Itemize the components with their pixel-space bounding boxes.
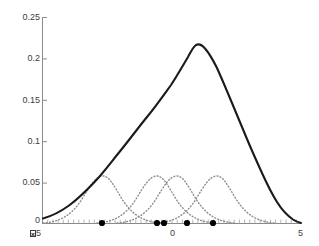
missing-minus-glyph-icon bbox=[30, 230, 36, 237]
x-axis-minor-ticks bbox=[48, 220, 297, 224]
rug-marker bbox=[154, 220, 160, 226]
x-tick-label-minus5: 5 bbox=[30, 229, 41, 238]
rug-marker bbox=[99, 220, 105, 226]
rug-marker bbox=[184, 220, 190, 226]
x-tick-label-minus5-text: 5 bbox=[36, 228, 41, 238]
y-tick-label-025: 0.25 bbox=[13, 13, 40, 22]
plot-area bbox=[0, 0, 319, 246]
kernel-component-1-path bbox=[43, 176, 161, 223]
kernel-component-4-path bbox=[157, 176, 275, 223]
y-tick-label-015: 0.15 bbox=[13, 96, 40, 105]
mixture-density-curve bbox=[43, 44, 301, 223]
x-tick-label-0: 0 bbox=[170, 229, 175, 238]
x-tick-label-5: 5 bbox=[298, 229, 303, 238]
y-axis-ticks bbox=[43, 18, 48, 224]
kernel-component-3-path bbox=[117, 176, 235, 223]
rug-marker bbox=[210, 220, 216, 226]
y-tick-label-005: 0.05 bbox=[13, 178, 40, 187]
rug-marker bbox=[161, 220, 167, 226]
y-tick-label-0: 0 bbox=[13, 216, 40, 225]
y-tick-label-02: 0.2 bbox=[13, 54, 40, 63]
kernel-density-chart: 0.25 0.2 0.15 0.1 0.05 0 5 0 5 bbox=[0, 0, 319, 246]
y-tick-label-01: 0.1 bbox=[13, 137, 40, 146]
